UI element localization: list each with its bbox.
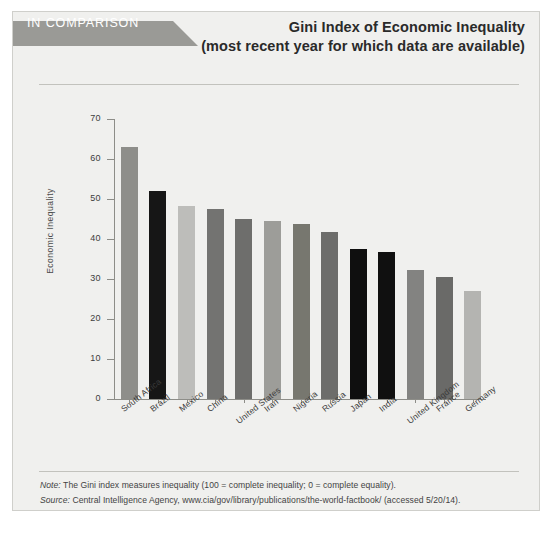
y-axis-tick-label: 40 bbox=[71, 233, 101, 245]
plot-area: Economic Inequality 010203040506070 Sout… bbox=[13, 12, 539, 510]
bar-column bbox=[293, 119, 310, 399]
bar-column bbox=[321, 119, 338, 399]
y-axis-tick-value: 50 bbox=[75, 193, 101, 203]
bar bbox=[149, 191, 166, 399]
y-axis-tick-value: 0 bbox=[75, 393, 101, 403]
y-axis-tick bbox=[107, 159, 115, 160]
y-axis-tick-value: 10 bbox=[75, 353, 101, 363]
bar-column bbox=[235, 119, 252, 399]
x-axis-labels: South AfricaBrazilMexicoChinaUnited Stat… bbox=[115, 404, 487, 474]
bar bbox=[350, 249, 367, 399]
bar-column bbox=[436, 119, 453, 399]
bar bbox=[436, 277, 453, 399]
y-axis-tick bbox=[107, 119, 115, 120]
bar bbox=[235, 219, 252, 399]
bar-series bbox=[115, 119, 487, 399]
bar bbox=[264, 221, 281, 399]
note-line: Note: The Gini index measures inequality… bbox=[40, 478, 520, 493]
x-axis-tick bbox=[415, 399, 416, 403]
bar-column bbox=[121, 119, 138, 399]
figure-footnotes: Note: The Gini index measures inequality… bbox=[40, 478, 520, 508]
y-axis-tick-value: 70 bbox=[75, 113, 101, 123]
figure-panel: IN COMPARISON Gini Index of Economic Ine… bbox=[12, 11, 540, 511]
x-axis-tick bbox=[244, 399, 245, 403]
bar bbox=[293, 224, 310, 399]
y-axis-tick bbox=[107, 319, 115, 320]
y-axis-title: Economic Inequality bbox=[45, 161, 55, 301]
y-axis-tick-label: 50 bbox=[71, 193, 101, 205]
y-axis-tick-value: 40 bbox=[75, 233, 101, 243]
bar bbox=[207, 209, 224, 399]
y-axis-tick bbox=[107, 279, 115, 280]
y-axis-tick-label: 10 bbox=[71, 353, 101, 365]
bar bbox=[407, 270, 424, 399]
bar bbox=[378, 252, 395, 399]
footer-divider bbox=[39, 471, 519, 472]
y-axis-tick bbox=[107, 359, 115, 360]
bar-column bbox=[149, 119, 166, 399]
bar bbox=[321, 232, 338, 399]
y-axis-tick bbox=[107, 199, 115, 200]
bar-column bbox=[350, 119, 367, 399]
source-line: Source: Central Intelligence Agency, www… bbox=[40, 493, 520, 508]
y-axis-tick bbox=[107, 239, 115, 240]
bar bbox=[178, 206, 195, 399]
y-axis-tick-label: 60 bbox=[71, 153, 101, 165]
bar-column bbox=[407, 119, 424, 399]
y-axis-tick-value: 60 bbox=[75, 153, 101, 163]
y-axis-tick bbox=[107, 399, 115, 400]
bar bbox=[121, 147, 138, 399]
source-text: Central Intelligence Agency, www.cia/gov… bbox=[70, 495, 460, 505]
bar-column bbox=[207, 119, 224, 399]
bar bbox=[464, 291, 481, 399]
y-axis-tick-label: 70 bbox=[71, 113, 101, 125]
bar-column bbox=[178, 119, 195, 399]
source-label: Source: bbox=[40, 495, 70, 505]
note-text: The Gini index measures inequality (100 … bbox=[61, 480, 396, 490]
y-axis-tick-label: 20 bbox=[71, 313, 101, 325]
y-axis-tick-value: 30 bbox=[75, 273, 101, 283]
y-axis-tick-label: 30 bbox=[71, 273, 101, 285]
bar-column bbox=[264, 119, 281, 399]
bar-column bbox=[464, 119, 481, 399]
note-label: Note: bbox=[40, 480, 61, 490]
bar-column bbox=[378, 119, 395, 399]
y-axis-tick-label: 0 bbox=[71, 393, 101, 405]
y-axis-tick-value: 20 bbox=[75, 313, 101, 323]
